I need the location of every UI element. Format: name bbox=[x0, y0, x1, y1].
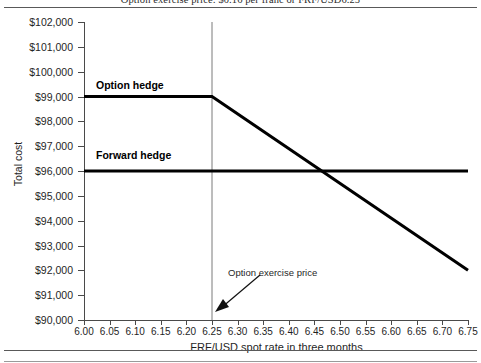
series-label-forward-hedge: Forward hedge bbox=[96, 149, 171, 161]
chart-figure: $90,000$91,000$92,000$93,000$94,000$95,0… bbox=[0, 8, 481, 349]
annotation-arrow-layer bbox=[215, 275, 260, 312]
footer-rule-top bbox=[4, 350, 477, 351]
chart-caption: Option exercise price: $0.16 per franc o… bbox=[0, 0, 481, 5]
annotation-arrow-shaft bbox=[221, 275, 260, 308]
annotation-option-exercise-price: Option exercise price bbox=[228, 267, 317, 278]
series-label-option-hedge: Option hedge bbox=[96, 79, 164, 91]
series-layer bbox=[0, 8, 481, 349]
series-line-option-hedge bbox=[84, 97, 468, 271]
annotation-arrow-head bbox=[215, 299, 229, 312]
footer-rule-bottom bbox=[4, 361, 477, 362]
